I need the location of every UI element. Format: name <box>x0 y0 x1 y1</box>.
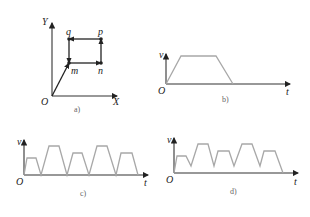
y-axis-label: Y <box>42 16 49 27</box>
t-axis-label: t <box>294 176 297 187</box>
caption-d: d) <box>230 187 237 196</box>
t-axis-label: t <box>286 86 289 97</box>
t-axis-label: t <box>144 177 147 188</box>
label-q: q <box>66 26 71 37</box>
motion-diagram: Y X O q p m n a) v t O b) v t O c) v t O… <box>0 0 310 217</box>
velocity-profile <box>174 144 283 173</box>
point-p <box>99 37 103 41</box>
v-axis-label: v <box>17 136 22 147</box>
panel-b: v t O b) <box>158 49 290 104</box>
panel-d: v t O d) <box>166 134 298 196</box>
origin-label: O <box>41 96 48 107</box>
panel-c: v t O c) <box>16 136 148 198</box>
caption-b: b) <box>222 95 229 104</box>
origin-label: O <box>166 174 173 185</box>
velocity-profile <box>24 146 138 175</box>
point-q <box>67 37 71 41</box>
label-n: n <box>98 65 103 76</box>
velocity-profile <box>166 56 233 84</box>
v-axis-label: v <box>159 49 164 60</box>
path-o-m <box>52 65 68 96</box>
origin-label: O <box>158 85 165 96</box>
label-m: m <box>71 65 78 76</box>
v-axis-label: v <box>167 134 172 145</box>
origin-label: O <box>16 176 23 187</box>
caption-c: c) <box>80 189 87 198</box>
panel-a: Y X O q p m n a) <box>41 16 120 114</box>
caption-a: a) <box>74 105 81 114</box>
label-p: p <box>97 26 103 37</box>
x-axis-label: X <box>112 96 120 107</box>
